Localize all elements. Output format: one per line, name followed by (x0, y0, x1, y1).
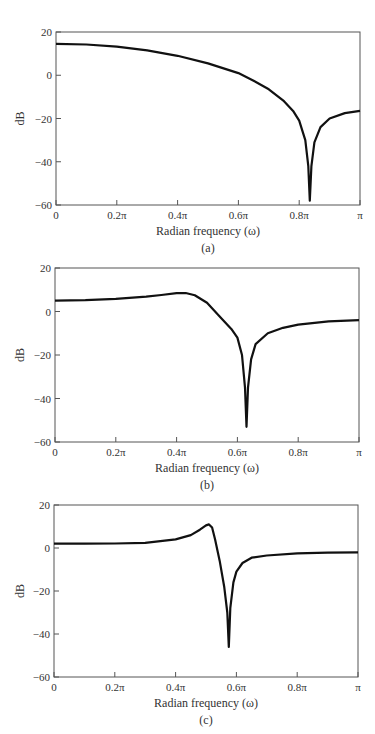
x-tick-label: 0.4π (167, 446, 187, 458)
x-axis-title: Radian frequency (ω) (155, 461, 259, 475)
x-axis-title: Radian frequency (ω) (154, 696, 258, 710)
x-tick-label: 0.2π (105, 681, 125, 693)
x-tick-label: 0.6π (227, 681, 247, 693)
plot-frame (55, 268, 359, 442)
x-tick-label: 0.2π (106, 446, 126, 458)
x-tick-label: 0.8π (289, 446, 309, 458)
x-tick-label: π (357, 209, 363, 221)
y-tick-label: 20 (40, 262, 52, 274)
x-axis-title: Radian frequency (ω) (156, 224, 260, 238)
magnitude-curve (55, 293, 359, 427)
x-tick-label: 0.4π (168, 209, 188, 221)
x-tick-label: 0 (52, 446, 58, 458)
plot-frame (54, 505, 358, 677)
x-tick-label: 0.6π (229, 209, 249, 221)
panel-caption: (a) (201, 241, 214, 255)
x-tick-label: π (356, 446, 362, 458)
figure: 200−20−40−6000.2π0.4π0.6π0.8ππdBRadian f… (0, 0, 375, 734)
chart-panel-b: 200−20−40−6000.2π0.4π0.6π0.8ππdBRadian f… (13, 262, 362, 492)
y-tick-label: −20 (34, 349, 52, 361)
y-tick-label: −40 (35, 156, 53, 168)
y-axis-title: dB (13, 111, 27, 125)
y-tick-label: −60 (34, 436, 52, 448)
magnitude-curve (56, 44, 360, 201)
panel-caption: (b) (200, 478, 214, 492)
y-tick-label: −40 (33, 628, 51, 640)
x-tick-label: 0.8π (288, 681, 308, 693)
y-tick-label: −60 (33, 671, 51, 683)
y-axis-title: dB (13, 348, 27, 362)
y-tick-label: 0 (45, 542, 51, 554)
y-tick-label: 20 (39, 499, 51, 511)
chart-panel-a: 200−20−40−6000.2π0.4π0.6π0.8ππdBRadian f… (13, 26, 363, 255)
panel-caption: (c) (199, 713, 212, 727)
chart-panel-c: 200−20−40−6000.2π0.4π0.6π0.8ππdBRadian f… (13, 499, 361, 727)
x-tick-label: 0 (51, 681, 57, 693)
y-axis-title: dB (13, 584, 27, 598)
x-tick-label: π (355, 681, 361, 693)
y-tick-label: −20 (35, 113, 53, 125)
y-tick-label: 0 (47, 69, 53, 81)
y-tick-label: −40 (34, 393, 52, 405)
x-tick-label: 0.6π (228, 446, 248, 458)
y-tick-label: −60 (35, 199, 53, 211)
x-tick-label: 0.8π (290, 209, 310, 221)
x-tick-label: 0.4π (166, 681, 186, 693)
y-tick-label: −20 (33, 585, 51, 597)
y-tick-label: 20 (41, 26, 53, 38)
y-tick-label: 0 (46, 306, 52, 318)
magnitude-curve (54, 524, 358, 647)
plot-frame (56, 32, 360, 205)
x-tick-label: 0.2π (107, 209, 127, 221)
x-tick-label: 0 (53, 209, 59, 221)
